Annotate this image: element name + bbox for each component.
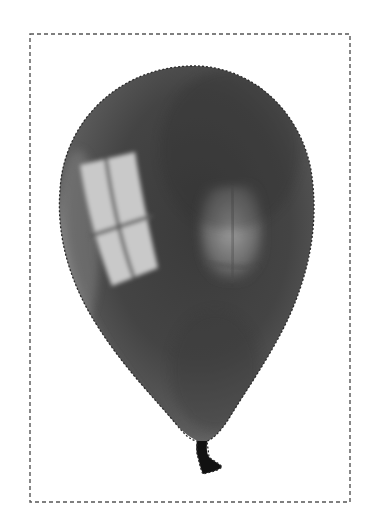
balloon-knot bbox=[196, 441, 222, 474]
balloon bbox=[55, 66, 314, 474]
